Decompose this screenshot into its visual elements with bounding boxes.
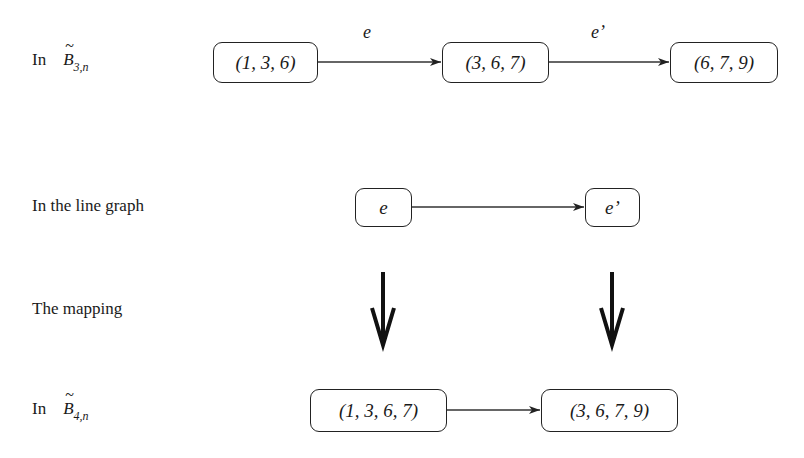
node-6-7-9: (6, 7, 9) — [670, 42, 778, 83]
node-3-6-7: (3, 6, 7) — [442, 42, 549, 83]
node-1-3-6-7: (1, 3, 6, 7) — [310, 389, 447, 432]
down-arrow-icon — [372, 272, 394, 345]
node-3-6-7-9: (3, 6, 7, 9) — [541, 389, 678, 432]
node-e: e — [355, 188, 412, 227]
node-e-prime: e’ — [585, 188, 640, 227]
node-1-3-6: (1, 3, 6) — [213, 42, 318, 83]
edge-label-e: e — [363, 22, 371, 43]
edge-label-e-prime: e’ — [591, 22, 605, 43]
down-arrow-icon — [601, 272, 623, 345]
